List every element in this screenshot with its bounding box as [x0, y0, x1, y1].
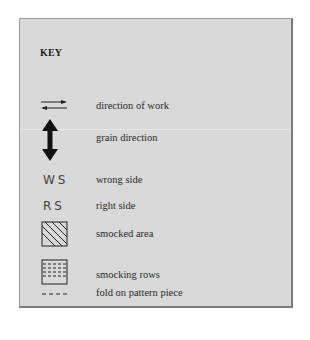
panel-seam-line [20, 129, 291, 130]
direction-of-work-arrows-icon [40, 99, 68, 111]
legend-label: smocked area [96, 228, 153, 239]
rs-abbreviation: RS [43, 199, 65, 213]
legend-label: right side [96, 200, 135, 211]
legend-label: direction of work [96, 100, 169, 111]
key-title: KEY [40, 47, 62, 58]
legend-label: grain direction [96, 132, 158, 143]
dashed-rows-square-icon [41, 259, 68, 285]
diagonal-hatched-square-icon [41, 221, 68, 247]
legend-label: fold on pattern piece [96, 287, 183, 298]
legend-label: wrong side [96, 174, 142, 185]
legend-label: smocking rows [96, 269, 160, 280]
dashed-line-icon [42, 292, 70, 296]
ws-abbreviation: WS [43, 173, 68, 187]
key-legend-panel: KEY direction of work grain direction WS… [19, 18, 293, 308]
grain-direction-double-arrow-icon [42, 119, 58, 161]
